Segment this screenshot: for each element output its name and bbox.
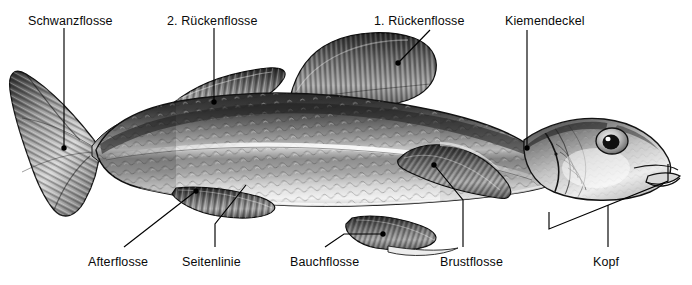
label-bauchflosse: Bauchflosse: [290, 255, 359, 269]
label-rueckenflosse-2: 2. Rückenflosse: [167, 14, 257, 28]
fish-eye-art: [596, 128, 628, 154]
label-seitenlinie: Seitenlinie: [182, 255, 241, 269]
label-brustflosse: Brustflosse: [440, 255, 503, 269]
label-rueckenflosse-1: 1. Rückenflosse: [374, 14, 464, 28]
label-schwanzflosse: Schwanzflosse: [28, 14, 113, 28]
label-afterflosse: Afterflosse: [88, 255, 148, 269]
fish-illustration: [0, 0, 692, 285]
fish-head-art: [520, 110, 680, 210]
label-kiemendeckel: Kiemendeckel: [505, 14, 585, 28]
pelvic-fin-art: [346, 216, 458, 255]
fish-anatomy-figure: Schwanzflosse 2. Rückenflosse 1. Rückenf…: [0, 0, 692, 285]
label-kopf: Kopf: [593, 255, 619, 269]
caudal-fin-art: [10, 71, 100, 216]
